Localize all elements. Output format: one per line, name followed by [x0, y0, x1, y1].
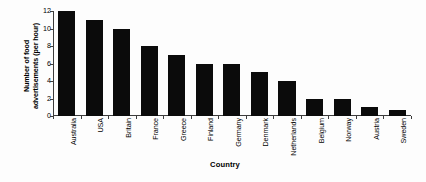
x-axis-category-slot: Denmark [246, 118, 274, 164]
x-axis-category-slot: Belgium [301, 118, 329, 164]
bar-slot [53, 11, 81, 116]
bar [168, 55, 185, 116]
bar-slot [218, 11, 246, 116]
x-axis-title-text: Country [210, 160, 240, 169]
x-axis-category-labels: AustraliaUSABritainFranceGreeceFinlandGe… [53, 118, 411, 164]
x-axis-category-slot: USA [81, 118, 109, 164]
bar-slot [191, 11, 219, 116]
x-axis-category-slot: Australia [53, 118, 81, 164]
x-axis-category-label: Austria [373, 118, 381, 140]
bar [278, 81, 295, 116]
bar [196, 64, 213, 117]
bar [389, 110, 406, 116]
bar-slot [273, 11, 301, 116]
x-axis-category-label: Netherlands [290, 118, 298, 156]
y-axis-title-line-1: Number of food [22, 22, 31, 108]
bar-slot [301, 11, 329, 116]
plot-area [53, 11, 411, 116]
x-axis-category-label: Germany [235, 118, 243, 147]
bar [223, 64, 240, 117]
bar-chart-figure: Number of food advertisements (per hour)… [0, 0, 426, 182]
bar-slot [356, 11, 384, 116]
bar [58, 11, 75, 116]
bar-slot [136, 11, 164, 116]
x-axis-category-label: Finland [207, 118, 215, 141]
bar [334, 99, 351, 117]
x-axis-category-label: Greece [180, 118, 188, 141]
bar-slot [328, 11, 356, 116]
x-axis-category-label: Belgium [318, 118, 326, 143]
x-axis-category-slot: Netherlands [273, 118, 301, 164]
bar [306, 99, 323, 117]
bar-slot [108, 11, 136, 116]
x-axis-category-slot: France [136, 118, 164, 164]
y-axis-tick-labels: 024681012 [38, 8, 51, 116]
x-axis-category-label: Australia [70, 118, 78, 145]
x-axis-category-slot: Sweden [383, 118, 411, 164]
bar [113, 29, 130, 117]
x-axis-category-slot: Greece [163, 118, 191, 164]
bar [86, 20, 103, 116]
x-axis-category-label: Sweden [400, 118, 408, 143]
x-axis-category-slot: Finland [191, 118, 219, 164]
x-axis-tick-mark [411, 116, 412, 119]
x-axis-category-label: USA [97, 118, 105, 132]
x-axis-category-label: Denmark [262, 118, 270, 146]
bar-series [53, 11, 411, 116]
bar-slot [81, 11, 109, 116]
x-axis-category-label: Britain [125, 118, 133, 138]
bar-slot [246, 11, 274, 116]
x-axis-category-label: Norway [345, 118, 353, 142]
x-axis-category-slot: Germany [218, 118, 246, 164]
x-axis-category-slot: Britain [108, 118, 136, 164]
bar-slot [163, 11, 191, 116]
x-axis-category-slot: Austria [356, 118, 384, 164]
x-axis-title: Country [0, 160, 426, 169]
bar-slot [383, 11, 411, 116]
bar [251, 72, 268, 116]
x-axis-category-slot: Norway [328, 118, 356, 164]
bar [361, 107, 378, 116]
bar [141, 46, 158, 116]
x-axis-category-label: France [152, 118, 160, 140]
